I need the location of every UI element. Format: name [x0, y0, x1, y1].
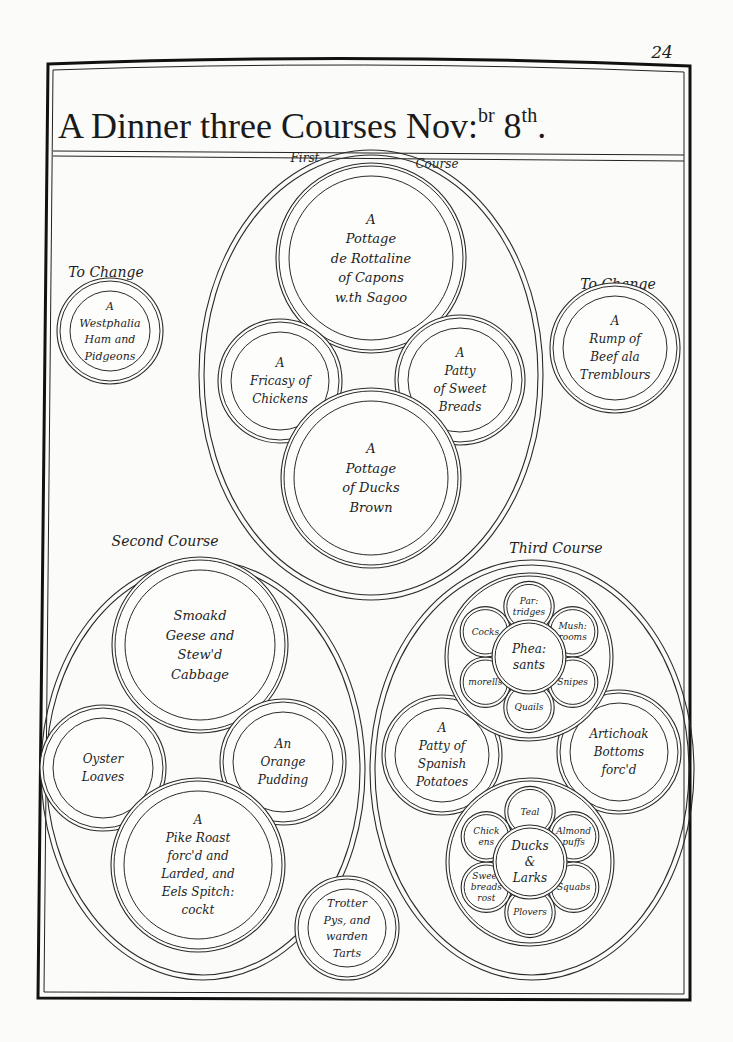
dish-pheasant-cluster-petal-label: Mush: — [557, 621, 586, 631]
dish-patty-potatoes-line: A — [437, 721, 447, 735]
dish-oyster-loaves-line: Loaves — [81, 770, 124, 784]
dish-pottage-capons-line: Pottage — [345, 231, 397, 246]
dish-rump-of-beef-line: Beef ala — [589, 350, 639, 364]
title-superscript-month: br — [478, 104, 495, 126]
label-third-course: Third Course — [509, 540, 602, 556]
dish-orange-pudding-line: Pudding — [257, 773, 309, 787]
dish-ducks-larks-cluster-petal-label: rost — [477, 893, 495, 903]
dish-pike-roast-line: Eels Spitch: — [161, 885, 235, 899]
dish-smoakd-geese-line: Geese and — [166, 628, 235, 643]
page-title: A Dinner three Courses Nov:br 8th. — [58, 104, 546, 146]
dish-orange-pudding-line: An — [274, 737, 291, 751]
dish-pike-roast-line: cockt — [182, 903, 215, 917]
dish-pheasant-cluster-petal-label: morells — [468, 677, 502, 687]
dish-westphalia-ham: AWestphaliaHam andPidgeons — [57, 278, 163, 384]
dish-oyster-loaves-line: Oyster — [83, 752, 125, 766]
dish-ducks-larks-cluster-petal-label: Almond — [555, 826, 591, 836]
dish-pottage-ducks-line: Pottage — [345, 461, 397, 476]
dish-fricasy-chickens-line: A — [275, 356, 285, 370]
dish-orange-pudding-line: Orange — [260, 755, 305, 769]
dish-ducks-larks-cluster-petal-label: ens — [478, 837, 494, 847]
dish-artichoak-bottoms-line: forc'd — [600, 763, 636, 777]
dish-patty-sweetbreads-line: Breads — [438, 400, 482, 414]
dish-ducks-larks-cluster-petal-label: Squabs — [557, 882, 591, 892]
title-rule-top — [53, 151, 684, 155]
dish-pheasant-cluster-petal-label: Par: — [519, 596, 538, 606]
dish-pottage-capons-line: of Capons — [338, 270, 404, 285]
dish-patty-potatoes-line: Potatoes — [415, 775, 468, 789]
dish-pottage-ducks-line: A — [365, 441, 375, 456]
dish-smoakd-geese-line: Cabbage — [171, 667, 229, 682]
dish-ducks-larks-cluster-petal-label: breads — [471, 882, 503, 892]
dish-ducks-larks-cluster-centre: Ducks&Larks — [493, 825, 567, 899]
label-first: First — [290, 151, 320, 165]
dish-patty-potatoes-line: Patty of — [418, 739, 468, 753]
dish-trotter-pys-line: Trotter — [327, 897, 368, 910]
dish-smoakd-geese-line: Stew'd — [178, 647, 223, 662]
dish-ducks-larks-cluster-centre-label: Ducks — [510, 839, 549, 853]
dish-pheasant-cluster-petal-label: tridges — [513, 607, 546, 617]
title-rule-bottom — [53, 156, 684, 161]
dish-patty-potatoes-line: Spanish — [418, 757, 467, 771]
dish-pheasant-cluster-petal-label: Snipes — [557, 677, 588, 687]
dish-rump-of-beef: ARump ofBeef alaTremblours — [550, 283, 680, 413]
dish-pottage-capons-line: A — [365, 212, 375, 227]
dish-pheasant-cluster: Par:tridgesMush:roomsSnipesQuailsmorells… — [445, 573, 613, 741]
dish-smoakd-geese-line: Smoakd — [173, 608, 226, 623]
dish-rump-of-beef-line: Tremblours — [580, 368, 651, 382]
dish-pottage-ducks: APottageof DucksBrown — [281, 388, 461, 568]
dish-rump-of-beef-line: Rump of — [588, 332, 643, 346]
dish-pike-roast: APike Roastforc'd andLarded, andEels Spi… — [111, 778, 285, 952]
dish-ducks-larks-cluster-petal-label: Chick — [473, 826, 499, 836]
dish-fricasy-chickens-line: Chickens — [252, 392, 308, 406]
dish-pottage-ducks-line: Brown — [348, 500, 392, 515]
dish-pottage-capons-line: de Rottaline — [331, 251, 412, 266]
dish-ducks-larks-cluster-petal-label: puffs — [562, 837, 585, 847]
dish-westphalia-ham-line: Ham and — [84, 333, 136, 346]
dish-pheasant-cluster-centre-label: sants — [513, 658, 545, 672]
dish-pheasant-cluster-petal-label: Quails — [515, 702, 544, 712]
dish-pottage-ducks-line: of Ducks — [342, 480, 400, 495]
dish-westphalia-ham-line: Westphalia — [79, 317, 140, 330]
dish-ducks-larks-cluster-centre-label: Larks — [512, 871, 547, 885]
dish-rump-of-beef-line: A — [610, 314, 620, 328]
dish-ducks-larks-cluster-petal-label: Plovers — [512, 907, 547, 917]
bill-of-fare-plate: 24 A Dinner three Courses Nov:br 8th. Fi… — [0, 0, 733, 1042]
dish-pheasant-cluster-centre-label: Phea: — [511, 642, 546, 656]
dish-patty-sweetbreads-line: of Sweet — [434, 382, 487, 396]
dish-artichoak-bottoms-line: Bottoms — [593, 745, 644, 759]
dish-trotter-pys-line: Tarts — [333, 947, 362, 960]
dish-patty-sweetbreads-line: Patty — [443, 364, 475, 378]
dish-pheasant-cluster-petal-label: Cocks — [472, 627, 500, 637]
dish-pike-roast-line: Pike Roast — [165, 831, 231, 845]
dish-westphalia-ham-line: A — [105, 300, 114, 313]
title-day: 8 — [495, 106, 522, 146]
dish-trotter-pys-line: Pys, and — [323, 914, 371, 927]
title-end: . — [537, 106, 546, 146]
dish-pike-roast-line: A — [193, 813, 203, 827]
dish-patty-sweetbreads-line: A — [455, 346, 465, 360]
dish-pike-roast-line: forc'd and — [166, 849, 229, 863]
dish-ducks-larks-cluster: TealAlmondpuffsSquabsPloversSweetbreadsr… — [446, 778, 614, 946]
dish-pottage-capons-line: w.th Sagoo — [335, 290, 407, 305]
page-number: 24 — [650, 42, 673, 62]
label-course: Course — [415, 157, 458, 171]
dish-pheasant-cluster-centre: Phea:sants — [492, 620, 566, 694]
title-superscript-day: th — [522, 104, 538, 126]
title-main: A Dinner three Courses Nov: — [58, 106, 478, 146]
label-second-course: Second Course — [112, 533, 219, 549]
dish-ducks-larks-cluster-petal-label: Teal — [521, 807, 540, 817]
dish-artichoak-bottoms-line: Artichoak — [588, 727, 648, 741]
dish-trotter-pys: TrotterPys, andwardenTarts — [295, 876, 399, 980]
dish-trotter-pys-line: warden — [326, 930, 368, 943]
dish-fricasy-chickens-line: Fricasy of — [249, 374, 313, 388]
dish-ducks-larks-cluster-centre-label: & — [525, 855, 536, 869]
dish-westphalia-ham-line: Pidgeons — [84, 350, 136, 363]
dish-pike-roast-line: Larded, and — [160, 867, 235, 881]
